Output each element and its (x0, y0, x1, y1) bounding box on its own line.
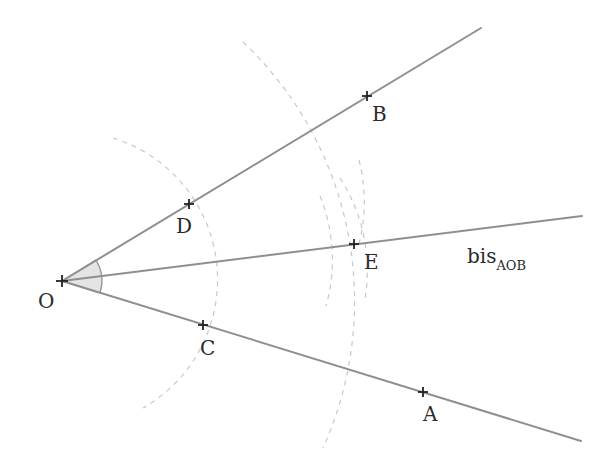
arc-D-through-E-upper (359, 160, 364, 244)
label-O: O (38, 289, 54, 313)
label-A: A (422, 402, 438, 426)
arc-D-through-E (320, 196, 332, 306)
label-B: B (372, 102, 387, 126)
rays (62, 28, 582, 441)
arc-C-through-E (340, 178, 367, 299)
point-A-marker (418, 387, 428, 397)
ray-OB (62, 28, 481, 281)
bisector-label-main: bis (467, 244, 496, 268)
label-E: E (364, 250, 379, 274)
construction-arcs (113, 42, 367, 448)
ray-OA (62, 281, 581, 441)
label-C: C (200, 336, 215, 360)
point-E-marker (349, 239, 359, 249)
point-labels: O A B C D E bisAOB (38, 102, 526, 426)
point-C-marker (198, 320, 208, 330)
point-markers (56, 91, 428, 397)
arc-O-through-A-B (243, 42, 355, 448)
bisector-label: bisAOB (467, 244, 526, 273)
diagram-canvas: O A B C D E bisAOB (0, 0, 614, 463)
point-O-marker (56, 275, 68, 287)
label-D: D (176, 214, 192, 238)
bisector-label-subscript: AOB (495, 258, 526, 273)
